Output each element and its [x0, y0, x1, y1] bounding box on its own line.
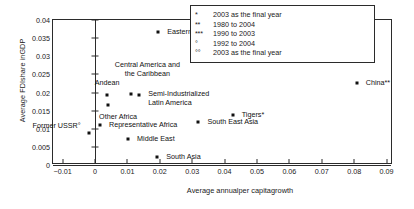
data-point-marker	[127, 137, 130, 140]
x-tick-mark	[159, 159, 160, 163]
x-tick-mark	[354, 159, 355, 163]
legend-row: ***1990 to 2003	[195, 29, 369, 39]
legend-marker: °	[195, 39, 213, 49]
legend-marker: *	[195, 10, 213, 20]
baseline-axis	[53, 165, 391, 166]
data-point-marker	[87, 131, 90, 134]
legend-text: 1990 to 2003	[213, 29, 369, 39]
data-point-label: South Asia	[166, 153, 200, 162]
y-tick-mark	[92, 74, 99, 75]
legend-box: *2003 as the final year**1980 to 2004***…	[190, 5, 375, 63]
data-point-marker	[197, 121, 200, 124]
data-point-marker	[156, 156, 159, 159]
x-tick-mark	[62, 159, 63, 163]
data-point-marker	[106, 93, 109, 96]
x-tick-mark	[321, 159, 322, 163]
x-tick-mark	[127, 159, 128, 163]
legend-text: 1992 to 2004	[213, 39, 369, 49]
legend-marker: **	[195, 20, 213, 30]
y-tick-mark	[92, 20, 99, 21]
data-point-label: Middle East	[137, 135, 175, 144]
x-tick-mark	[192, 159, 193, 163]
legend-marker: ***	[195, 29, 213, 39]
data-point-label: South East Asia	[207, 118, 258, 127]
y-tick-label: 0.02	[36, 88, 50, 97]
y-tick-label: 0.03	[36, 52, 50, 61]
data-point-label: China**	[366, 79, 390, 88]
legend-row: °°2003 as the final year	[195, 48, 369, 58]
x-tick-mark	[224, 159, 225, 163]
x-tick-label: 0.09	[380, 167, 394, 176]
x-tick-mark	[386, 159, 387, 163]
data-point-label: Former USSR°	[33, 121, 81, 130]
y-tick-mark	[92, 110, 99, 111]
data-point-label: Semi-Industrialized Latin America	[148, 91, 209, 108]
data-point-marker	[98, 124, 101, 127]
x-tick-label: 0	[93, 167, 97, 176]
legend-text: 2003 as the final year	[213, 48, 369, 58]
data-point-marker	[138, 94, 141, 97]
y-tick-mark	[92, 146, 99, 147]
x-tick-label: 0.08	[347, 167, 361, 176]
x-axis-label: Average annualper capitagrowth	[120, 186, 360, 195]
x-tick-label: 0.01	[120, 167, 134, 176]
x-tick-mark	[95, 159, 96, 163]
legend-marker: °°	[195, 48, 213, 58]
data-point-marker	[355, 82, 358, 85]
y-tick-label: 0.025	[32, 70, 50, 79]
y-tick-mark	[92, 38, 99, 39]
data-point-label: Central America and the Caribbean	[115, 61, 180, 78]
y-tick-label: 0.04	[36, 16, 50, 25]
data-point-label: Andean	[95, 78, 120, 87]
data-point-marker	[231, 113, 234, 116]
x-tick-mark	[257, 159, 258, 163]
legend-row: °1992 to 2004	[195, 39, 369, 49]
x-tick-label: 0.04	[218, 167, 232, 176]
x-tick-label: 0.06	[282, 167, 296, 176]
y-tick-label: 0.005	[32, 142, 50, 151]
x-tick-label: −0.01	[54, 167, 72, 176]
data-point-marker	[157, 30, 160, 33]
y-tick-label: 0.035	[32, 34, 50, 43]
y-tick-mark	[92, 56, 99, 57]
x-tick-label: 0.02	[153, 167, 167, 176]
x-tick-mark	[289, 159, 290, 163]
y-tick-label: 0.015	[32, 106, 50, 115]
x-tick-label: 0.07	[315, 167, 329, 176]
y-tick-mark	[92, 92, 99, 93]
legend-row: **1980 to 2004	[195, 20, 369, 30]
scatter-chart-figure: Average FDIshare inGDP Average annualper…	[0, 0, 414, 209]
legend-row: *2003 as the final year	[195, 10, 369, 20]
y-tick-label: 0	[46, 161, 50, 170]
y-axis-label: Average FDIshare inGDP	[18, 11, 27, 151]
x-tick-label: 0.03	[185, 167, 199, 176]
data-point-label: Representative Africa	[109, 121, 177, 130]
data-point-marker	[107, 103, 110, 106]
data-point-marker	[130, 92, 133, 95]
legend-text: 2003 as the final year	[213, 10, 369, 20]
legend-text: 1980 to 2004	[213, 20, 369, 30]
y-tick-mark	[92, 128, 99, 129]
x-tick-label: 0.05	[250, 167, 264, 176]
